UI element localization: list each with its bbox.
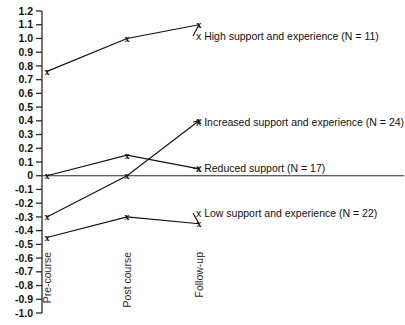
- y-axis-tick-label: 0.3: [18, 128, 33, 140]
- y-axis-tick-label: 1.2: [18, 5, 33, 17]
- data-point-marker: x: [125, 150, 130, 161]
- y-axis-tick-label: -0.5: [15, 238, 33, 250]
- data-point-marker: x: [125, 33, 130, 44]
- y-axis-tick-label: 1.0: [18, 32, 33, 44]
- y-axis-tick-label: 0.8: [18, 60, 33, 72]
- series-line-1: [47, 121, 199, 217]
- series-line-0: [47, 25, 199, 72]
- series-line-3: [47, 217, 199, 238]
- data-point-marker: x: [45, 66, 50, 77]
- y-axis-tick-label: -0.4: [15, 224, 33, 236]
- data-point-marker: x: [125, 170, 130, 181]
- data-point-marker: x: [45, 170, 50, 181]
- series-label-0: x High support and experience (N = 11): [196, 30, 379, 42]
- y-axis-tick-label: 0.6: [18, 87, 33, 99]
- y-axis-tick-label: -0.3: [15, 211, 33, 223]
- data-point-marker: x: [197, 218, 202, 229]
- y-axis-tick-label: -0.1: [15, 183, 33, 195]
- y-axis-tick-label: 0.4: [18, 114, 33, 126]
- series-label-3: x Low support and experience (N = 22): [196, 207, 377, 219]
- data-point-marker: x: [45, 232, 50, 243]
- x-axis-category-label-2: Follow-up: [193, 252, 205, 298]
- y-axis-tick-label: 1.1: [18, 18, 33, 30]
- y-axis-tick-label: 0.7: [18, 73, 33, 85]
- data-point-marker: x: [45, 211, 50, 222]
- x-axis-category-label-0: Pre-course: [41, 252, 53, 304]
- y-axis-tick-label: -0.2: [15, 197, 33, 209]
- y-axis-tick-label: 0.2: [18, 142, 33, 154]
- y-axis-tick-label: 0: [27, 169, 33, 181]
- data-point-marker: x: [125, 211, 130, 222]
- y-axis-tick-label: -0.7: [15, 265, 33, 277]
- series-label-2: x Reduced support (N = 17): [196, 162, 325, 174]
- chart-canvas: 1.21.11.00.90.80.70.60.50.40.30.20.10-0.…: [0, 0, 405, 325]
- y-axis-tick-label: 0.1: [18, 156, 33, 168]
- x-axis-category-label-1: Post course: [121, 252, 133, 308]
- series-label-1: x Increased support and experience (N = …: [196, 116, 404, 128]
- y-axis-tick-label: -1.0: [15, 307, 33, 319]
- y-axis-tick-label: 0.5: [18, 101, 33, 113]
- series-line-2: [47, 155, 199, 176]
- y-axis-tick-label: -0.6: [15, 252, 33, 264]
- y-axis-tick-label: -0.8: [15, 279, 33, 291]
- y-axis-tick-label: 0.9: [18, 46, 33, 58]
- y-axis-tick-label: -0.9: [15, 293, 33, 305]
- line-chart: 1.21.11.00.90.80.70.60.50.40.30.20.10-0.…: [0, 0, 405, 325]
